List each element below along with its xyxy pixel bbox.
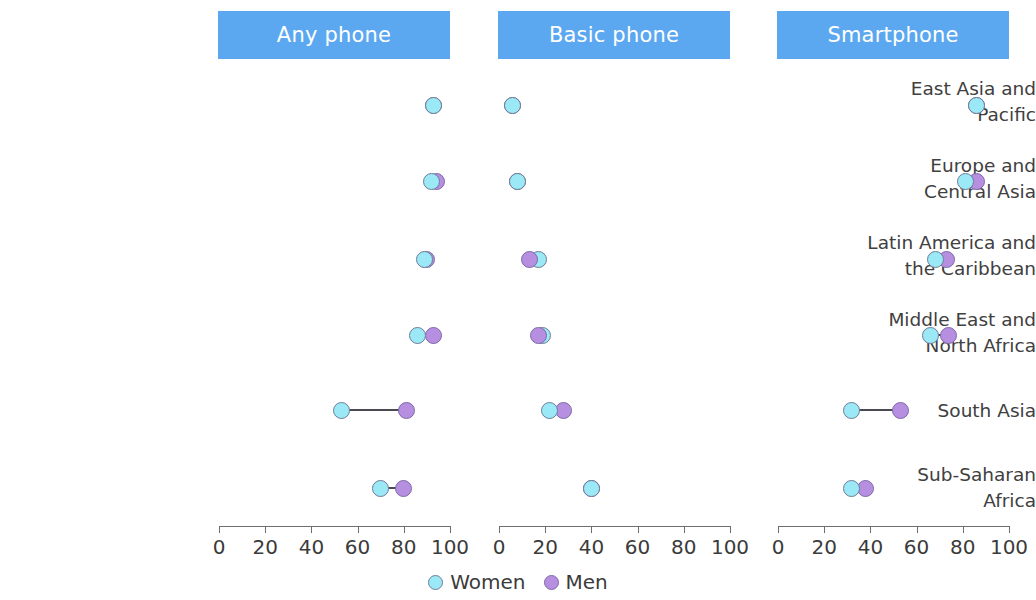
data-point-women[interactable] [409, 327, 426, 344]
data-point-women[interactable] [583, 480, 600, 497]
legend-swatch-men-icon [544, 575, 559, 590]
legend-label-women: Women [450, 570, 525, 594]
data-point-men[interactable] [395, 480, 412, 497]
x-axis-tick-label: 40 [299, 535, 324, 559]
x-axis-tick [870, 526, 871, 533]
panel-header-smartphone: Smartphone [777, 11, 1009, 59]
data-point-women[interactable] [843, 402, 860, 419]
data-point-women[interactable] [372, 480, 389, 497]
x-axis-tick-label: 80 [671, 535, 696, 559]
x-axis-tick [404, 526, 405, 533]
phone-ownership-dumbbell-chart: Any phone Basic phone Smartphone East As… [0, 0, 1036, 600]
panel-header-label: Smartphone [827, 23, 958, 47]
data-point-women[interactable] [504, 97, 521, 114]
x-axis-tick-label: 60 [345, 535, 370, 559]
x-axis-tick-label: 80 [391, 535, 416, 559]
legend-item-women: Women [428, 570, 525, 594]
x-axis-tick [499, 526, 500, 533]
x-axis-tick-label: 40 [858, 535, 883, 559]
x-axis-tick-label: 40 [579, 535, 604, 559]
legend-item-men: Men [544, 570, 608, 594]
panel-header-basic-phone: Basic phone [498, 11, 730, 59]
x-axis-tick [684, 526, 685, 533]
x-axis-tick-label: 60 [904, 535, 929, 559]
data-point-women[interactable] [968, 97, 985, 114]
data-point-women[interactable] [922, 327, 939, 344]
x-axis-tick [638, 526, 639, 533]
x-axis-tick [778, 526, 779, 533]
data-point-women[interactable] [416, 251, 433, 268]
data-point-women[interactable] [423, 173, 440, 190]
chart-legend: Women Men [0, 570, 1036, 594]
data-point-men[interactable] [940, 327, 957, 344]
row-label-east-asia-and-pacific: East Asia and Pacific [828, 76, 1036, 128]
data-point-men[interactable] [530, 327, 547, 344]
x-axis-tick [358, 526, 359, 533]
data-point-women[interactable] [927, 251, 944, 268]
row-label-europe-and-central-asia: Europe and Central Asia [828, 153, 1036, 205]
x-axis-tick [219, 526, 220, 533]
x-axis-tick [265, 526, 266, 533]
dumbbell-connector [341, 409, 406, 411]
data-point-men[interactable] [425, 327, 442, 344]
panel-header-label: Any phone [277, 23, 391, 47]
x-axis-tick-label: 100 [711, 535, 749, 559]
panel-header-label: Basic phone [549, 23, 679, 47]
x-axis-tick-label: 60 [625, 535, 650, 559]
x-axis-line [499, 526, 730, 527]
x-axis-tick-label: 100 [431, 535, 469, 559]
x-axis-tick [824, 526, 825, 533]
x-axis-tick-label: 0 [213, 535, 226, 559]
x-axis-tick [963, 526, 964, 533]
x-axis-tick-label: 20 [811, 535, 836, 559]
x-axis-tick-label: 20 [252, 535, 277, 559]
x-axis-tick [311, 526, 312, 533]
data-point-women[interactable] [957, 173, 974, 190]
x-axis-tick [450, 526, 451, 533]
x-axis-tick [1009, 526, 1010, 533]
x-axis-tick [917, 526, 918, 533]
data-point-women[interactable] [333, 402, 350, 419]
legend-swatch-women-icon [428, 575, 443, 590]
x-axis-tick-label: 100 [990, 535, 1028, 559]
x-axis-tick [730, 526, 731, 533]
data-point-men[interactable] [398, 402, 415, 419]
x-axis-tick [591, 526, 592, 533]
data-point-women[interactable] [541, 402, 558, 419]
data-point-men[interactable] [521, 251, 538, 268]
legend-label-men: Men [566, 570, 608, 594]
x-axis-tick [545, 526, 546, 533]
x-axis-line [778, 526, 1009, 527]
data-point-men[interactable] [892, 402, 909, 419]
x-axis-tick-label: 20 [532, 535, 557, 559]
data-point-women[interactable] [843, 480, 860, 497]
panel-header-any-phone: Any phone [218, 11, 450, 59]
data-point-women[interactable] [425, 97, 442, 114]
data-point-women[interactable] [509, 173, 526, 190]
x-axis-tick-label: 80 [950, 535, 975, 559]
x-axis-line [219, 526, 450, 527]
x-axis-tick-label: 0 [493, 535, 506, 559]
x-axis-tick-label: 0 [772, 535, 785, 559]
